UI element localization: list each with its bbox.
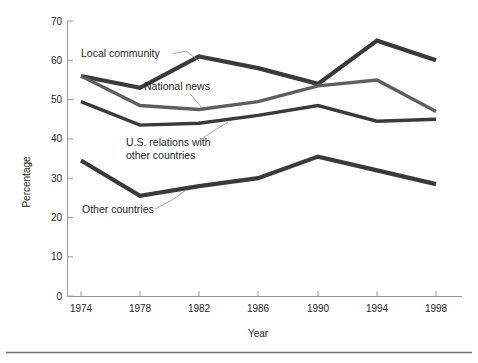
y-axis-title: Percentage (21, 156, 32, 208)
y-tick-label-30: 30 (51, 173, 63, 184)
y-tick-label-60: 60 (51, 55, 63, 66)
x-tick-label-1994: 1994 (366, 303, 389, 314)
x-tick-label-1978: 1978 (129, 303, 152, 314)
line-chart-svg: 70 60 50 40 30 20 10 0 Percentage 1974 1… (0, 0, 478, 363)
x-axis-title: Year (248, 328, 269, 339)
x-tick-label-1998: 1998 (425, 303, 448, 314)
x-tick-label-1982: 1982 (188, 303, 211, 314)
x-tick-label-1986: 1986 (247, 303, 270, 314)
y-tick-label-40: 40 (51, 133, 63, 144)
annotation-other-countries: Other countries (82, 203, 154, 215)
y-tick-label-50: 50 (51, 94, 63, 105)
annotation-national-news: National news (144, 80, 210, 92)
annotation-local-community: Local community (81, 47, 161, 59)
x-tick-label-1990: 1990 (307, 303, 330, 314)
chart-figure: 70 60 50 40 30 20 10 0 Percentage 1974 1… (0, 0, 478, 363)
y-tick-label-10: 10 (51, 251, 63, 262)
x-tick-label-1974: 1974 (70, 303, 93, 314)
y-tick-label-0: 0 (56, 291, 62, 302)
annotation-us-relations-line2: other countries (126, 149, 195, 161)
annotation-us-relations-line1: U.S. relations with (126, 136, 211, 148)
y-tick-label-70: 70 (51, 16, 63, 27)
y-tick-label-20: 20 (51, 212, 63, 223)
